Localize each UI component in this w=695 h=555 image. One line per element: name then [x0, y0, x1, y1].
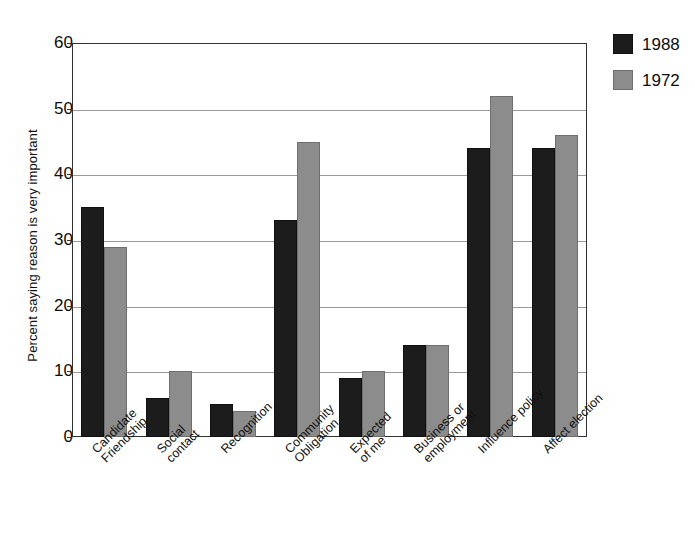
bar: [169, 371, 192, 437]
chart-legend: 19881972: [613, 30, 695, 102]
y-tick-label: 0: [13, 428, 73, 445]
bar-group: [394, 43, 458, 437]
bar: [555, 135, 578, 437]
bar: [467, 148, 490, 437]
bar-group: [330, 43, 394, 437]
bar: [403, 345, 426, 437]
y-tick-label: 60: [13, 34, 73, 51]
bar-group: [523, 43, 587, 437]
bar: [362, 371, 385, 437]
y-tick-label: 30: [13, 231, 73, 248]
bar: [490, 96, 513, 438]
bar-group: [136, 43, 200, 437]
y-tick-label: 50: [13, 100, 73, 117]
bar: [532, 148, 555, 437]
bar: [426, 345, 449, 437]
bar: [104, 247, 127, 437]
legend-swatch-icon: [613, 70, 633, 90]
bar-group: [72, 43, 136, 437]
bar: [146, 398, 169, 437]
legend-item: 1972: [613, 66, 695, 94]
legend-label: 1988: [642, 36, 680, 53]
bar: [297, 142, 320, 438]
bar-group: [265, 43, 329, 437]
bar-group: [458, 43, 522, 437]
y-tick-mark: [67, 437, 72, 438]
y-tick-label: 10: [13, 362, 73, 379]
legend-swatch-icon: [613, 34, 633, 54]
bar: [274, 220, 297, 437]
y-tick-label: 40: [13, 165, 73, 182]
legend-label: 1972: [642, 72, 680, 89]
y-tick-label: 20: [13, 297, 73, 314]
bars-layer: [72, 43, 587, 437]
bar-group: [201, 43, 265, 437]
bar-chart: Percent saying reason is very important …: [0, 0, 695, 555]
bar: [81, 207, 104, 437]
bar: [233, 411, 256, 437]
bar: [210, 404, 233, 437]
legend-item: 1988: [613, 30, 695, 58]
bar: [339, 378, 362, 437]
